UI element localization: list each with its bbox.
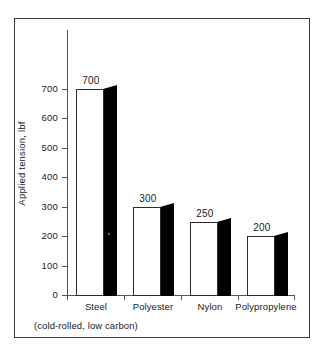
- figure-footnote: (cold-rolled, low carbon): [34, 320, 138, 331]
- figure-frame: [14, 18, 310, 338]
